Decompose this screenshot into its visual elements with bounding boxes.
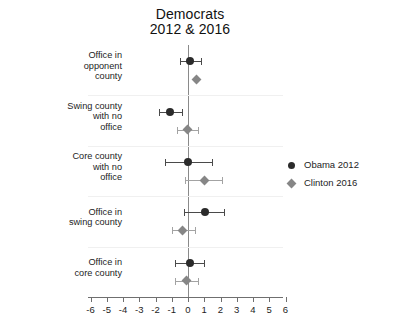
x-axis-tick [139,297,140,302]
data-point-marker [184,158,192,166]
x-axis-tick [286,297,287,302]
x-axis-tick [123,297,124,302]
x-axis-tick [188,297,189,302]
x-axis-tick [269,297,270,302]
confidence-interval-cap [175,260,176,267]
x-axis-tick [172,297,173,302]
data-point-marker [201,208,209,216]
x-axis-tick [107,297,108,302]
confidence-interval-cap [159,109,160,116]
confidence-interval-cap [224,209,225,216]
x-axis-tick [91,297,92,302]
data-point-marker [166,108,174,116]
confidence-interval-cap [185,177,186,184]
data-point-marker [182,125,192,135]
plot-area [88,45,283,297]
confidence-interval-cap [201,58,202,65]
x-axis-tick [156,297,157,302]
row-separator [88,95,283,96]
confidence-interval-cap [198,127,199,134]
confidence-interval-cap [184,209,185,216]
x-axis-tick [221,297,222,302]
confidence-interval-cap [182,109,183,116]
chart-title-main: Democrats [100,7,280,22]
data-point-marker [199,175,209,185]
data-point-marker [181,276,191,286]
confidence-interval-cap [198,278,199,285]
x-axis-tick-label: 6 [276,304,296,315]
coefficient-plot: Democrats 2012 & 2016 Office inopponentc… [0,0,394,334]
legend-diamond-icon [287,179,297,189]
row-separator [88,146,283,147]
x-axis-tick [237,297,238,302]
confidence-interval-cap [180,58,181,65]
confidence-interval-cap [165,159,166,166]
legend-item-label: Clinton 2016 [304,176,357,190]
data-point-marker [177,225,187,235]
confidence-interval-cap [175,278,176,285]
chart-title-subtitle: 2012 & 2016 [100,22,280,37]
confidence-interval-cap [222,177,223,184]
legend-item-label: Obama 2012 [304,158,359,172]
data-point-marker [186,259,194,267]
row-separator [88,196,283,197]
confidence-interval-cap [177,127,178,134]
x-axis-tick [204,297,205,302]
confidence-interval-cap [195,227,196,234]
data-point-marker [186,57,194,65]
legend-circle-icon [288,162,295,169]
row-separator [88,247,283,248]
confidence-interval-cap [172,227,173,234]
data-point-marker [192,74,202,84]
confidence-interval-cap [212,159,213,166]
x-axis-tick [253,297,254,302]
confidence-interval-cap [204,260,205,267]
chart-title: Democrats 2012 & 2016 [100,7,280,37]
